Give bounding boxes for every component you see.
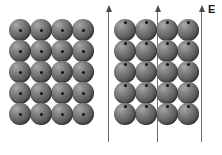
field-arrow-left [108,10,109,142]
atom [9,103,31,125]
polarized-lattice [114,19,199,125]
nucleus-dot [82,113,85,116]
nucleus-dot [82,29,85,32]
atom [177,40,199,62]
nucleus-dot [166,63,169,66]
atom [177,61,199,83]
atom [30,82,52,104]
atom [135,19,157,41]
nucleus-dot [145,84,148,87]
atom [177,19,199,41]
field-arrow-right [201,10,202,142]
atom [9,19,31,41]
nucleus-dot [19,113,22,116]
nucleus-dot [82,71,85,74]
arrow-head-icon [106,5,112,12]
atom [9,40,31,62]
nucleus-dot [19,71,22,74]
atom [156,103,178,125]
atom [30,61,52,83]
nucleus-dot [61,92,64,95]
nucleus-dot [187,21,190,24]
electric-field-label: E [208,4,215,15]
nucleus-dot [166,21,169,24]
atom [135,61,157,83]
nucleus-dot [187,84,190,87]
atom [51,103,73,125]
atom [72,19,94,41]
atom [135,82,157,104]
nucleus-dot [40,92,43,95]
atom [114,103,136,125]
nucleus-dot [40,113,43,116]
atom [156,19,178,41]
nucleus-dot [40,29,43,32]
nucleus-dot [61,71,64,74]
nucleus-dot [82,92,85,95]
atom [30,19,52,41]
nucleus-dot [40,50,43,53]
nucleus-dot [124,21,127,24]
atom [156,82,178,104]
atom [114,19,136,41]
nucleus-dot [124,63,127,66]
atom [114,61,136,83]
nucleus-dot [166,105,169,108]
nucleus-dot [19,50,22,53]
atom [9,61,31,83]
nucleus-dot [40,71,43,74]
nucleus-dot [145,21,148,24]
atom [114,82,136,104]
atom [135,40,157,62]
dielectric-polarization-figure: E [0,0,222,155]
atom [156,40,178,62]
nucleus-dot [82,50,85,53]
atom [51,19,73,41]
atom [9,82,31,104]
atom [51,40,73,62]
nucleus-dot [124,84,127,87]
nucleus-dot [61,29,64,32]
atom [30,103,52,125]
atom [72,61,94,83]
atom [114,40,136,62]
nucleus-dot [166,84,169,87]
atom [72,82,94,104]
unpolarized-lattice [9,19,94,125]
atom [51,82,73,104]
atom [72,40,94,62]
atom [135,103,157,125]
nucleus-dot [61,113,64,116]
nucleus-dot [145,42,148,45]
nucleus-dot [19,92,22,95]
arrow-head-icon [199,5,205,12]
nucleus-dot [61,50,64,53]
nucleus-dot [124,42,127,45]
atom [177,82,199,104]
nucleus-dot [187,63,190,66]
nucleus-dot [187,42,190,45]
arrow-head-icon [155,5,161,12]
nucleus-dot [145,105,148,108]
nucleus-dot [187,105,190,108]
atom [72,103,94,125]
nucleus-dot [166,42,169,45]
atom [51,61,73,83]
nucleus-dot [19,29,22,32]
atom [156,61,178,83]
nucleus-dot [124,105,127,108]
atom [177,103,199,125]
nucleus-dot [145,63,148,66]
atom [30,40,52,62]
